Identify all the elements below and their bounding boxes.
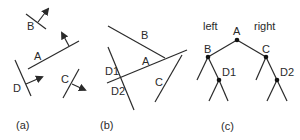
label-d1: D1: [105, 65, 119, 77]
segment-c: C: [61, 69, 85, 98]
panel-c: left right A B C D1 D2 (c): [197, 20, 294, 132]
normal-arrow-icon: [26, 77, 42, 84]
caption-c: (c): [221, 120, 234, 132]
segment-d: D: [13, 60, 42, 96]
normal-arrow-icon: [62, 33, 69, 46]
caption-b: (b): [100, 119, 113, 131]
tree-node-d1: [217, 78, 222, 83]
caption-a: (a): [16, 119, 29, 131]
label-a: A: [34, 50, 42, 62]
node-label-a: A: [233, 25, 241, 37]
panel-b: B A D1 D2 C (b): [100, 26, 187, 131]
label-c: C: [155, 76, 163, 88]
node-label-c: C: [262, 43, 270, 55]
tree-node-a: [235, 38, 240, 43]
label-b: B: [27, 20, 34, 32]
tree-node-d2: [275, 78, 280, 83]
node-label-d1: D1: [222, 66, 236, 78]
node-label-d2: D2: [280, 66, 294, 78]
segment-b: B: [26, 9, 48, 32]
label-d2: D2: [111, 85, 125, 97]
tree-node-b: [206, 55, 211, 60]
left-label: left: [203, 20, 218, 32]
normal-arrow-icon: [72, 84, 85, 90]
node-label-b: B: [204, 43, 211, 55]
bsp-diagram: B A D C (a) B A D1 D2 C (b) left: [0, 0, 300, 140]
label-b: B: [141, 29, 148, 41]
label-d: D: [13, 82, 21, 94]
label-a: A: [142, 55, 150, 67]
line-b: [108, 26, 165, 58]
normal-arrow-icon: [38, 9, 48, 22]
line-d: [108, 47, 134, 110]
label-c: C: [61, 73, 69, 85]
right-label: right: [254, 20, 275, 32]
segment-a: A: [28, 33, 79, 69]
panel-a: B A D C (a): [13, 9, 85, 131]
tree-node-c: [264, 55, 269, 60]
